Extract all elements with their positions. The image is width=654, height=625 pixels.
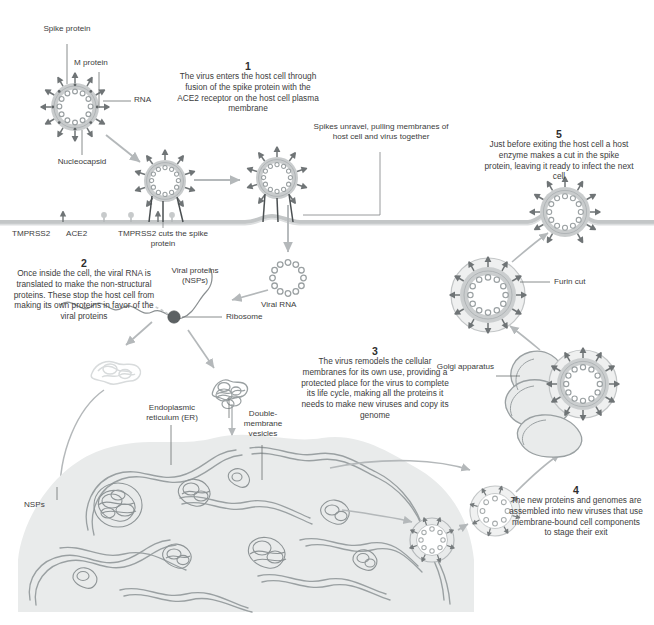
step-4-text: The new proteins and genomes are assembl… — [508, 495, 644, 538]
leader-spikes-unravel — [303, 152, 380, 215]
step-3-text: The virus remodels the cellular membrane… — [296, 356, 454, 421]
virus-furin-vesicle — [449, 256, 526, 333]
label-nsps: NSPs — [24, 500, 66, 510]
label-tmprss2: TMPRSS2 — [12, 229, 74, 239]
viral-rna-ring — [270, 260, 307, 297]
label-endoplasmic-reticulum: Endoplasmic reticulum (ER) — [132, 403, 212, 423]
label-viral-rna: Viral RNA — [261, 300, 323, 310]
label-spike-protein: Spike protein — [34, 24, 100, 34]
virus-docking — [134, 149, 196, 222]
label-spikes-unravel: Spikes unravel, pulling membranes of hos… — [313, 122, 449, 142]
step-1-text: The virus enters the host cell through f… — [175, 71, 321, 114]
arrow-golgi-to-furin — [510, 326, 540, 350]
golgi-apparatus — [505, 347, 619, 457]
label-ribosome: Ribosome — [226, 312, 290, 322]
label-golgi-apparatus: Golgi apparatus — [432, 362, 494, 372]
arrow-rna-to-ribosome — [232, 290, 268, 300]
arrow-furin-to-exit — [512, 233, 548, 262]
label-ace2: ACE2 — [66, 229, 106, 239]
label-double-membrane-vesicles: Double- membrane vesicles — [234, 409, 292, 440]
virus-exiting — [529, 176, 600, 244]
virus-fusing — [246, 146, 308, 222]
label-viral-proteins-nsps: Viral proteins (NSPs) — [166, 266, 224, 286]
nsp-blob-light — [91, 361, 140, 384]
step-5-text: Just before exiting the host cell a host… — [484, 139, 634, 182]
step-2-text: Once inside the cell, the viral RNA is t… — [10, 268, 158, 322]
label-tmprss2-cuts-spike: TMPRSS2 cuts the spike protein — [115, 229, 211, 249]
arrows-nsp — [126, 322, 214, 368]
label-furin-cut: Furin cut — [554, 277, 624, 287]
label-nucleocapsid: Nucleocapsid — [42, 157, 122, 167]
label-m-protein: M protein — [74, 58, 144, 68]
diagram-canvas: Spike protein M protein RNA Nucleocapsid… — [0, 0, 654, 625]
